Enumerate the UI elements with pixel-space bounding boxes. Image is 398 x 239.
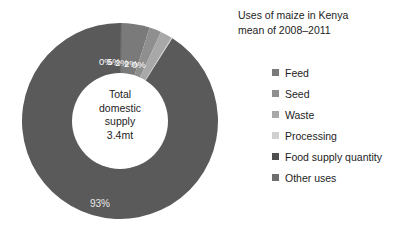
legend-item[interactable]: Waste [272,104,398,125]
legend-swatch-icon [272,153,279,160]
legend-item[interactable]: Other uses [272,167,398,188]
legend-swatch-icon [272,90,279,97]
legend-item-label: Other uses [285,172,336,184]
chart-legend: FeedSeedWasteProcessingFood supply quant… [272,62,398,188]
legend-item[interactable]: Food supply quantity [272,146,398,167]
donut-hole [72,73,168,169]
donut-svg [14,14,226,228]
legend-item-label: Waste [285,109,314,121]
legend-swatch-icon [272,132,279,139]
chart-figure: Total domestic supply 3.4mt 0% 5% 2% 2% … [0,0,398,239]
legend-item[interactable]: Processing [272,125,398,146]
legend-item[interactable]: Feed [272,62,398,83]
legend-swatch-icon [272,111,279,118]
chart-subtitle: mean of 2008–2011 [238,23,396,38]
legend-item[interactable]: Seed [272,83,398,104]
legend-item-label: Feed [285,67,309,79]
chart-title: Uses of maize in Kenya mean of 2008–2011 [238,8,396,38]
chart-title-line1: Uses of maize in Kenya [238,8,396,23]
legend-swatch-icon [272,174,279,181]
donut-chart: Total domestic supply 3.4mt 0% 5% 2% 2% … [14,14,226,228]
legend-item-label: Food supply quantity [285,151,382,163]
legend-swatch-icon [272,69,279,76]
legend-item-label: Processing [285,130,337,142]
legend-item-label: Seed [285,88,310,100]
